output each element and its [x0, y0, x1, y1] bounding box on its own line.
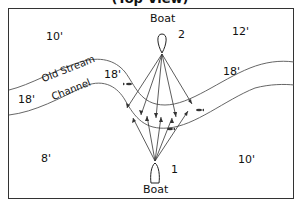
channel-diagram — [0, 0, 300, 203]
boat-2-label: Boat — [150, 12, 175, 25]
depth-bottom-left: 8' — [41, 152, 51, 165]
boat-1-hull-icon — [151, 163, 160, 183]
boat-2-hull-icon — [158, 34, 166, 53]
fish-icon — [126, 83, 132, 85]
boat-2-number: 2 — [178, 28, 185, 41]
fish-icons — [123, 83, 204, 131]
depth-channel-mid: 18' — [104, 68, 121, 81]
depth-bottom-right: 10' — [238, 153, 255, 166]
channel-lower-bank — [9, 83, 294, 128]
boat-1-number: 1 — [171, 163, 178, 176]
depth-top-right: 12' — [232, 25, 249, 38]
boat-1-label: Boat — [143, 183, 168, 196]
depth-channel-left: 18' — [18, 93, 35, 106]
fish-icon — [196, 109, 202, 111]
fish-icon — [167, 128, 173, 130]
boat-2-cast-lines — [127, 54, 192, 118]
depth-channel-right: 18' — [223, 65, 240, 78]
depth-top-left: 10' — [46, 30, 63, 43]
